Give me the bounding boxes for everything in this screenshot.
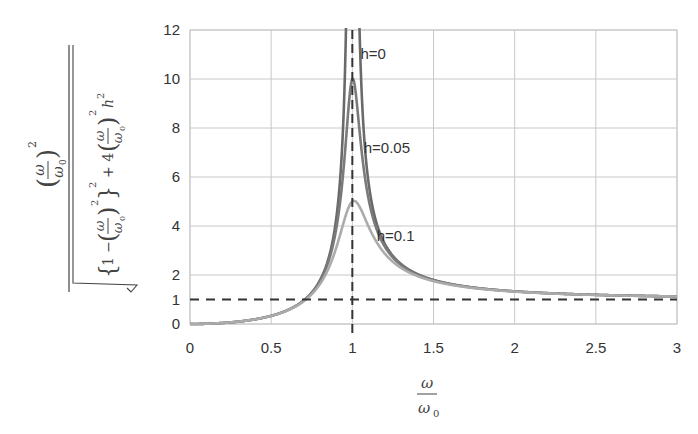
- x-axis-ticks: 00.511.522.53: [186, 339, 681, 356]
- chart-figure: 0124681012 00.511.522.53 h=0h=0.05h=0.1 …: [0, 0, 698, 434]
- y-tick-label: 12: [163, 21, 180, 38]
- svg-text:ω: ω: [110, 132, 125, 143]
- y-tick-label: 1: [172, 291, 180, 308]
- svg-text:h: h: [100, 99, 116, 108]
- x-tick-label: 1: [348, 339, 356, 356]
- x-tick-label: 1.5: [423, 339, 444, 356]
- x-tick-label: 3: [673, 339, 681, 356]
- svg-text:): ): [94, 117, 122, 126]
- svg-text:2: 2: [87, 110, 98, 116]
- svg-text:(: (: [32, 178, 62, 188]
- annotation-h-0-05: h=0.05: [364, 139, 410, 156]
- y-tick-label: 4: [172, 217, 180, 234]
- svg-text:1 −: 1 −: [100, 241, 116, 266]
- x-tick-label: 2: [510, 339, 518, 356]
- svg-text:ω: ω: [92, 130, 107, 141]
- svg-text:ω: ω: [92, 220, 107, 231]
- svg-text:}: }: [95, 186, 120, 200]
- svg-text:ω: ω: [31, 164, 47, 176]
- x-tick-label: 2.5: [585, 339, 606, 356]
- svg-text:ω: ω: [418, 399, 430, 417]
- svg-text:ω: ω: [50, 166, 66, 178]
- y-tick-label: 6: [172, 168, 180, 185]
- curve-annotations: h=0h=0.05h=0.1: [360, 45, 414, 243]
- y-axis-label: ( ω ω 0 ) 2 { 1 − ( ω ω 0 ) 2 } 2 + 4 ( …: [26, 45, 137, 292]
- annotation-h-0-1: h=0.1: [377, 227, 415, 244]
- svg-text:2: 2: [26, 141, 39, 148]
- svg-text:): ): [94, 207, 122, 216]
- y-tick-label: 0: [172, 315, 180, 332]
- svg-text:): ): [32, 149, 62, 159]
- y-tick-label: 2: [172, 266, 180, 283]
- y-tick-label: 8: [172, 119, 180, 136]
- svg-text:+ 4: + 4: [100, 153, 116, 178]
- svg-text:2: 2: [95, 93, 106, 99]
- svg-text:ω: ω: [110, 222, 125, 233]
- svg-text:ω: ω: [421, 374, 433, 392]
- x-tick-label: 0: [186, 339, 194, 356]
- x-tick-label: 0.5: [261, 339, 282, 356]
- y-axis-ticks: 0124681012: [163, 21, 180, 332]
- svg-text:2: 2: [87, 182, 98, 188]
- y-tick-label: 10: [163, 70, 180, 87]
- x-axis-label: ω ω 0: [417, 374, 439, 419]
- annotation-h-0: h=0: [360, 45, 385, 62]
- svg-text:0: 0: [433, 408, 439, 419]
